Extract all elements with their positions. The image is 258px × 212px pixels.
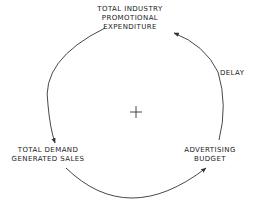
edge-left-to-right — [66, 168, 206, 198]
node-label-line: ADVERTISING — [172, 146, 248, 155]
node-label-line: EXPENDITURE — [82, 23, 178, 32]
edge-top-to-left — [47, 28, 105, 143]
loop-polarity-plus-icon — [130, 106, 142, 118]
node-total-industry-promotional-expenditure: TOTAL INDUSTRY PROMOTIONAL EXPENDITURE — [82, 5, 178, 32]
node-advertising-budget: ADVERTISING BUDGET — [172, 146, 248, 164]
node-label-line: BUDGET — [172, 155, 248, 164]
node-label-line: GENERATED SALES — [0, 155, 96, 164]
node-label-line: TOTAL DEMAND — [0, 146, 96, 155]
node-label-line: PROMOTIONAL — [82, 14, 178, 23]
edge-delay-label: DELAY — [220, 69, 254, 78]
edge-right-to-top — [174, 33, 223, 140]
causal-loop-diagram: TOTAL INDUSTRY PROMOTIONAL EXPENDITURE T… — [0, 0, 258, 212]
node-label-line: TOTAL INDUSTRY — [82, 5, 178, 14]
node-total-demand-generated-sales: TOTAL DEMAND GENERATED SALES — [0, 146, 96, 164]
